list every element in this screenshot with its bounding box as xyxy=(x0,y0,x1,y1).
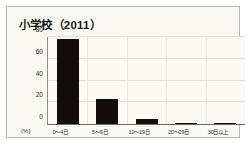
vgridline-4 xyxy=(206,37,207,124)
y-tick-20: 20 xyxy=(17,92,43,99)
chart-panel: 小学校（2011） 80 60 40 20 0 xyxy=(6,6,240,138)
chart-figure: 小学校（2011） 80 60 40 20 0 xyxy=(0,0,248,146)
vgridline-2 xyxy=(127,37,128,124)
y-tick-60: 60 xyxy=(17,49,43,56)
y-tick-40: 40 xyxy=(17,71,43,78)
bar-0-4-days xyxy=(57,39,79,124)
y-tick-80: 80 xyxy=(17,27,43,34)
bar-5-9-days xyxy=(96,99,118,124)
vgridline-1 xyxy=(87,37,88,124)
bar-10-19-days xyxy=(136,119,158,124)
x-tick-20-29-days: 20〜29日 xyxy=(159,128,198,136)
vgridline-3 xyxy=(166,37,167,124)
plot-area xyxy=(47,37,245,125)
x-tick-5-9-days: 5〜9日 xyxy=(80,128,119,136)
y-tick-0: 0 xyxy=(17,114,43,121)
x-tick-10-19-days: 10〜19日 xyxy=(120,128,159,136)
x-tick-30-days-or-more: 30日以上 xyxy=(198,128,237,136)
x-tick-0-4-days: 0〜4日 xyxy=(41,128,80,136)
bar-30-days-or-more xyxy=(214,123,236,124)
gridline-80 xyxy=(48,36,245,37)
bar-20-29-days xyxy=(175,123,197,124)
y-axis-labels: 80 60 40 20 0 xyxy=(15,7,43,146)
y-axis-unit-label: (%) xyxy=(21,127,31,134)
